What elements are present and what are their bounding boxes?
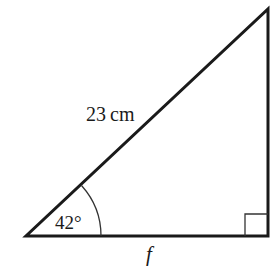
triangle-diagram: 23 cm 42° f: [0, 0, 278, 278]
angle-label: 42°: [55, 212, 82, 233]
angle-arc: [82, 186, 101, 236]
right-angle-marker: [245, 214, 268, 236]
triangle: [26, 9, 268, 236]
base-label: f: [146, 242, 155, 266]
hypotenuse-label: 23 cm: [86, 103, 135, 125]
